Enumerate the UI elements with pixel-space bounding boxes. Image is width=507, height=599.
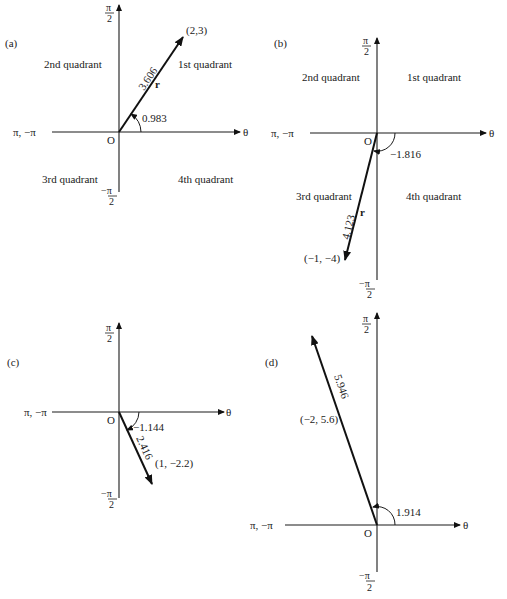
- magnitude-label: 2.416: [134, 434, 156, 462]
- vector-symbol: r: [360, 206, 365, 218]
- panel-label: (d): [265, 356, 278, 369]
- svg-text:2: 2: [367, 289, 372, 300]
- quadrant-1-label: 1st quadrant: [407, 71, 461, 83]
- quadrant-2-label: 2nd quadrant: [302, 71, 360, 83]
- theta-label: θ: [489, 127, 494, 139]
- svg-text:−π: −π: [101, 488, 112, 499]
- bottom-fraction: −π 2: [101, 185, 117, 207]
- theta-label: θ: [463, 519, 468, 531]
- bottom-fraction: −π 2: [359, 278, 375, 300]
- origin-label: O: [107, 414, 115, 426]
- svg-text:−π: −π: [101, 185, 112, 196]
- svg-text:π: π: [106, 2, 111, 13]
- svg-text:−π: −π: [359, 278, 370, 289]
- top-fraction: π 2: [105, 2, 114, 24]
- svg-text:2: 2: [107, 13, 112, 24]
- angle-arc: [131, 114, 141, 132]
- theta-label: θ: [226, 406, 231, 418]
- svg-text:2: 2: [109, 196, 114, 207]
- quadrant-4-label: 4th quadrant: [178, 173, 233, 185]
- svg-text:−π: −π: [359, 570, 370, 581]
- theta-label: θ: [243, 126, 248, 138]
- angle-label: 1.914: [396, 506, 421, 518]
- angle-label: 0.983: [142, 112, 167, 124]
- origin-label: O: [364, 527, 372, 539]
- svg-text:2: 2: [367, 582, 372, 593]
- svg-text:2: 2: [107, 333, 112, 344]
- svg-text:2: 2: [109, 499, 114, 510]
- point-label: (2,3): [186, 24, 207, 37]
- panel-label: (b): [274, 37, 287, 50]
- bottom-fraction: −π 2: [359, 570, 375, 593]
- quadrant-3-label: 3rd quadrant: [296, 190, 352, 202]
- angle-label: −1.144: [133, 421, 164, 433]
- bottom-fraction: −π 2: [101, 488, 117, 510]
- panel-d: (d) θ π, −π O π 2 −π 2 (−2, 5.6) 5.946 1…: [250, 313, 468, 593]
- panel-b: (b) θ π, −π O π 2 −π 2 2nd quadrant 1st …: [271, 35, 494, 300]
- panel-label: (c): [7, 356, 20, 369]
- vector-symbol: r: [155, 78, 160, 90]
- panel-a: (a) θ π, −π O π 2 −π 2 2nd quadrant 1st …: [5, 2, 248, 207]
- panel-c: (c) θ π, −π O π 2 −π 2 (1, −2.2) 2.416 −…: [7, 322, 231, 510]
- angle-label: −1.816: [390, 148, 421, 160]
- svg-text:2: 2: [364, 46, 369, 57]
- magnitude-label: 5.946: [332, 373, 352, 401]
- quadrant-3-label: 3rd quadrant: [42, 173, 98, 185]
- svg-text:π: π: [363, 35, 368, 46]
- top-fraction: π 2: [362, 35, 371, 57]
- pi-label: π, −π: [271, 127, 294, 139]
- pi-label: π, −π: [250, 519, 273, 531]
- top-fraction: π 2: [362, 313, 371, 335]
- pi-label: π, −π: [24, 406, 47, 418]
- svg-text:π: π: [363, 313, 368, 324]
- origin-label: O: [107, 134, 115, 146]
- top-fraction: π 2: [105, 322, 114, 344]
- svg-text:π: π: [106, 322, 111, 333]
- pi-label: π, −π: [13, 126, 36, 138]
- origin-label: O: [364, 135, 372, 147]
- vector-r: [312, 336, 377, 525]
- panel-label: (a): [5, 37, 18, 50]
- point-label: (1, −2.2): [155, 457, 194, 470]
- polar-diagrams: (a) θ π, −π O π 2 −π 2 2nd quadrant 1st …: [0, 0, 507, 599]
- svg-text:2: 2: [364, 324, 369, 335]
- quadrant-1-label: 1st quadrant: [178, 58, 232, 70]
- point-label: (−2, 5.6): [300, 413, 339, 426]
- quadrant-4-label: 4th quadrant: [406, 190, 461, 202]
- quadrant-2-label: 2nd quadrant: [44, 58, 102, 70]
- point-label: (−1, −4): [304, 252, 341, 265]
